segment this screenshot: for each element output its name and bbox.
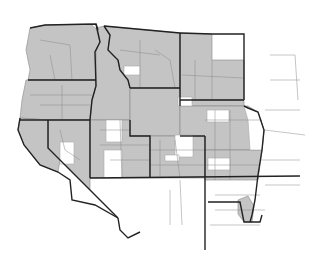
unshaded-county	[208, 158, 230, 170]
unshaded-county	[175, 135, 193, 157]
unshaded-county	[60, 142, 74, 164]
unshaded-county	[106, 120, 122, 142]
oregon	[20, 80, 96, 120]
unshaded-county	[104, 150, 122, 178]
washington	[26, 24, 100, 80]
unshaded-county	[124, 66, 140, 75]
western-us-county-map	[0, 0, 313, 273]
shaded-region	[18, 24, 264, 222]
wyoming	[130, 88, 180, 136]
